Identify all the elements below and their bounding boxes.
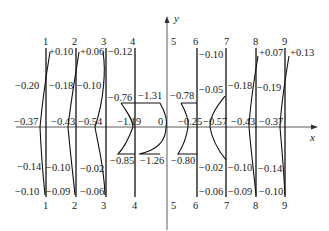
label-s3-mid: −0.54 — [78, 116, 103, 127]
label-s4-bot-left: −0.85 — [110, 155, 134, 166]
profile-1 — [40, 52, 50, 195]
profile-4-lower — [139, 127, 166, 154]
section-label-8: 8 — [253, 36, 258, 47]
label-s3-top: −0.12 — [108, 46, 132, 57]
label-s8-mid: −0.43 — [231, 116, 255, 127]
label-s1-top: +0.10 — [49, 46, 73, 57]
section-label-6: 6 — [193, 36, 198, 47]
label-s9-top: +0.13 — [290, 47, 314, 58]
value-labels: +0.10 −0.20 −0.37 −0.14 −0.10 +0.06 −0.1… — [14, 46, 314, 197]
label-s9-bottom: −0.10 — [259, 186, 283, 197]
section-label-9-bottom: 9 — [282, 200, 287, 211]
label-s6-bot: −0.80 — [171, 155, 195, 166]
section-label-4-bottom: 4 — [132, 200, 138, 211]
label-s4-top-left: −0.76 — [108, 92, 132, 103]
x-axis-label: x — [309, 131, 315, 143]
label-s9-mid: −0.37 — [259, 116, 283, 127]
label-s3-upper: −0.10 — [77, 80, 101, 91]
label-s4-bot-right: −1.26 — [140, 155, 164, 166]
section-label-5: 5 — [171, 36, 176, 47]
label-s8-lower: −0.10 — [228, 162, 252, 173]
profile-4-left — [118, 103, 135, 154]
label-s2-top: +0.06 — [80, 46, 104, 57]
label-s7-top: −0.10 — [199, 49, 223, 60]
label-s8-upper: −0.18 — [228, 80, 252, 91]
section-label-7-bottom: 7 — [224, 200, 229, 211]
y-axis-label: y — [173, 12, 179, 24]
label-s6-mid: −0.25 — [178, 116, 202, 127]
label-s8-top: +0.07 — [259, 47, 283, 58]
label-s4-mid: −1.19 — [117, 116, 141, 127]
label-s1-upper: −0.20 — [15, 80, 39, 91]
label-s9-upper: −0.19 — [257, 82, 281, 93]
section-label-3-bottom: 3 — [101, 200, 106, 211]
section-label-5-bottom: 5 — [171, 200, 176, 211]
label-s4-top-right: −1.31 — [138, 90, 162, 101]
label-s3-lower: −0.02 — [80, 163, 104, 174]
profile-6 — [178, 103, 197, 154]
label-s8-bottom: −0.09 — [228, 186, 252, 197]
label-s7-upper: −0.05 — [199, 84, 223, 95]
stress-distribution-diagram: x y 1 2 3 4 5 6 7 8 9 1 2 3 4 5 6 7 8 9 — [0, 0, 329, 231]
label-s4-mid-right: 0 — [158, 116, 163, 127]
label-s7-mid: −0.57 — [203, 116, 227, 127]
label-s7-bottom: −0.06 — [199, 186, 223, 197]
section-label-7: 7 — [224, 36, 229, 47]
section-labels-bottom: 1 2 3 4 5 6 7 8 9 — [43, 200, 287, 211]
y-axis-arrow — [165, 16, 170, 23]
label-s2-mid: −0.43 — [51, 116, 75, 127]
label-s1-mid: −0.37 — [14, 116, 38, 127]
label-s1-lower: −0.14 — [17, 161, 42, 172]
section-label-1-bottom: 1 — [43, 200, 48, 211]
x-axis-arrow — [311, 125, 318, 130]
label-s6-top: −0.78 — [170, 90, 194, 101]
label-s2-upper: −0.18 — [49, 80, 73, 91]
label-s1-bottom: −0.10 — [15, 186, 39, 197]
section-label-6-bottom: 6 — [193, 200, 198, 211]
section-label-9: 9 — [282, 36, 287, 47]
section-label-2-bottom: 2 — [72, 200, 77, 211]
label-s9-lower: −0.14 — [258, 163, 283, 174]
label-s3-bottom: −0.06 — [80, 186, 104, 197]
label-s2-bottom: −0.09 — [46, 186, 70, 197]
profile-7 — [210, 96, 226, 160]
section-label-1: 1 — [43, 36, 48, 47]
section-label-8-bottom: 8 — [253, 200, 258, 211]
label-s2-lower: −0.10 — [46, 162, 70, 173]
label-s7-lower: −0.02 — [199, 162, 223, 173]
